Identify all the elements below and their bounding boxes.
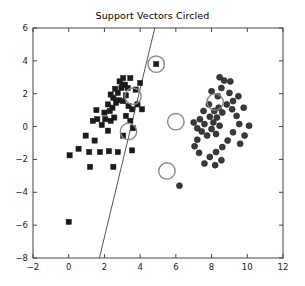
data-point-square	[94, 108, 99, 113]
data-point-circle	[207, 114, 213, 120]
data-point-circle	[176, 183, 182, 189]
data-point-circle	[242, 133, 248, 139]
data-point-square	[112, 115, 117, 120]
x-tick-label: 0	[66, 262, 71, 272]
data-point-square	[76, 146, 81, 151]
chart-figure: Support Vectors Circled −2024681012−8−6−…	[0, 0, 305, 286]
data-point-square	[121, 76, 126, 81]
data-point-circle	[196, 150, 202, 156]
data-point-square	[111, 164, 116, 169]
data-point-circle	[201, 108, 207, 114]
x-tick-label: 4	[137, 262, 142, 272]
data-point-circle	[201, 121, 207, 127]
data-point-circle	[194, 137, 200, 143]
data-point-circle	[209, 126, 215, 132]
x-tick-label: 2	[102, 262, 107, 272]
data-point-circle	[217, 123, 223, 129]
data-point-circle	[230, 129, 236, 135]
data-point-square	[88, 164, 93, 169]
data-point-circle	[197, 116, 203, 122]
data-point-circle	[192, 143, 198, 149]
y-tick-label: 2	[23, 89, 28, 99]
decision-boundary-line	[99, 28, 154, 258]
x-tick-label: −2	[27, 262, 40, 272]
support-vector-ring	[168, 113, 184, 129]
x-tick-label: 8	[209, 262, 214, 272]
y-tick-label: −6	[15, 220, 28, 230]
data-point-circle	[224, 101, 230, 107]
data-point-square	[128, 76, 133, 81]
support-vector-ring	[159, 163, 175, 179]
data-point-square	[90, 118, 95, 123]
series-circles	[176, 74, 252, 188]
y-tick-label: 4	[23, 56, 28, 66]
data-point-square	[139, 107, 144, 112]
data-point-square	[67, 153, 72, 158]
data-point-square	[154, 62, 159, 67]
x-tick-label: 6	[173, 262, 178, 272]
y-tick-label: 0	[23, 122, 28, 132]
data-point-square	[103, 117, 108, 122]
data-point-circle	[191, 119, 197, 125]
data-point-circle	[225, 138, 231, 144]
data-point-square	[113, 86, 118, 91]
data-point-circle	[213, 149, 219, 155]
data-point-square	[87, 149, 92, 154]
data-point-circle	[218, 85, 224, 91]
data-point-circle	[219, 110, 225, 116]
scatter-plot: −2024681012−8−6−4−20246	[0, 0, 305, 286]
data-point-square	[66, 219, 71, 224]
data-point-circle	[207, 154, 213, 160]
data-point-circle	[199, 129, 205, 135]
data-point-circle	[217, 74, 223, 80]
data-point-square	[130, 148, 135, 153]
data-point-square	[138, 80, 143, 85]
data-point-circle	[214, 115, 220, 121]
data-point-circle	[218, 157, 224, 163]
data-point-circle	[204, 133, 210, 139]
data-point-circle	[201, 161, 207, 167]
data-point-circle	[246, 123, 252, 129]
data-point-square	[106, 149, 111, 154]
data-point-circle	[234, 113, 240, 119]
data-point-circle	[237, 141, 243, 147]
data-point-square	[92, 138, 97, 143]
data-point-square	[102, 110, 107, 115]
data-point-square	[97, 149, 102, 154]
data-point-circle	[241, 105, 247, 111]
data-point-circle	[236, 121, 242, 127]
data-point-circle	[227, 78, 233, 84]
y-tick-label: −8	[15, 253, 28, 263]
y-tick-label: −2	[15, 154, 28, 164]
data-point-square	[130, 107, 135, 112]
data-point-circle	[235, 93, 241, 99]
data-point-circle	[230, 98, 236, 104]
data-point-square	[99, 122, 104, 127]
data-point-square	[108, 92, 113, 97]
data-point-circle	[226, 90, 232, 96]
data-point-square	[123, 113, 128, 118]
y-tick-label: −4	[15, 187, 28, 197]
data-point-circle	[219, 144, 225, 150]
data-point-square	[105, 102, 110, 107]
y-tick-label: 6	[23, 23, 28, 33]
data-point-square	[83, 133, 88, 138]
data-point-square	[115, 149, 120, 154]
data-point-circle	[229, 106, 235, 112]
x-tick-label: 12	[278, 262, 289, 272]
data-point-circle	[212, 162, 218, 168]
data-point-square	[105, 128, 110, 133]
x-tick-label: 10	[242, 262, 253, 272]
series-squares	[66, 62, 159, 225]
data-point-circle	[213, 131, 219, 137]
